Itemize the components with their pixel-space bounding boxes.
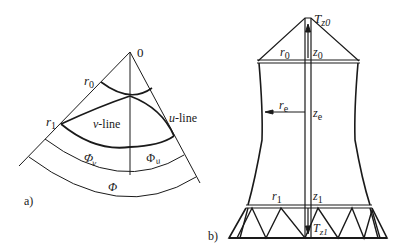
r0-label-a: r0 [84,73,94,90]
phi-partial-arc [45,139,184,172]
tz0-arrowhead [306,24,311,32]
phi-v-label: Φv [82,150,98,168]
panel-a-labels: 0 r0 r1 v-line u-line Φv Φu Φ a) [24,45,197,208]
shell-left-side [248,63,262,205]
z1-label: z1 [312,189,323,205]
v-line-label: v-line [93,117,120,131]
r1-label-a: r1 [46,114,56,131]
shell-right-side [355,63,370,205]
r1-label-b: r1 [272,189,282,205]
u-line-curve [130,96,174,136]
r0-arc [101,82,152,95]
panel-b [229,18,387,238]
tz1-label: Tz1 [313,221,328,237]
left-radius-line [19,52,130,166]
tz0-label: Tz0 [314,11,330,28]
phi-u-label: Φu [145,149,162,167]
re-arrowhead [265,110,273,114]
panel-a-label: a) [24,194,33,208]
origin-label: 0 [137,45,144,60]
re-label: re [279,98,289,114]
z0-label: z0 [312,45,323,61]
ze-label: ze [312,106,323,122]
panel-b-label: b) [208,229,218,243]
diagram-canvas: 0 r0 r1 v-line u-line Φv Φu Φ a) [0,0,400,251]
diagram-svg: 0 r0 r1 v-line u-line Φv Φu Φ a) [0,0,400,251]
r0-label-b: r0 [280,45,290,61]
u-line-label: u-line [169,111,197,125]
phi-label: Φ [108,180,117,194]
